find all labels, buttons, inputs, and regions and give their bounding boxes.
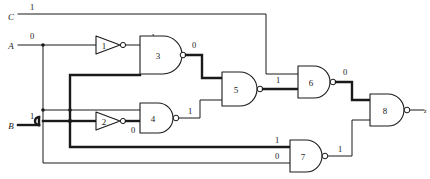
value-nand4-out: 1 [188,106,192,116]
value-nand3-out: 0 [192,40,196,50]
junction-b-split [68,119,72,123]
value-nand6-out: 0 [343,67,347,77]
value-nand5-out: 1 [276,75,280,85]
value-nand7-input-top: 1 [275,135,279,145]
junction-a-split-top [41,43,45,47]
gate-nand-8-number: 8 [383,106,388,116]
wire-b-branch-to-nand3 [70,75,140,121]
value-nand7-out: 1 [338,144,342,154]
wire-nand4-to-nand5 [179,100,222,118]
gate-inverter-2-number: 2 [102,117,107,127]
gate-nand-4-number: 4 [151,114,156,124]
input-label-C: C [8,12,15,22]
input-label-B: B [8,121,14,131]
gate-inverter-1-number: 1 [102,41,107,51]
gate-nand-4-body [140,103,173,133]
output-label-z: z [423,107,427,114]
gate-nand-6-body [298,66,330,98]
gate-nand-8-bubble [404,107,410,113]
junction-a-split-mid [41,108,45,112]
gate-nand-5-number: 5 [234,85,239,95]
gate-nand-4-bubble [173,115,179,121]
value-input-C: 1 [30,2,34,12]
gate-nand-7-number: 7 [301,152,306,162]
value-input-B: 1 [30,111,34,121]
wire-nand3-to-nand5 [186,55,222,78]
gate-nand-3-body [140,36,182,74]
wire-nand6-to-nand8 [336,82,370,100]
gate-inverter-1-body [96,36,120,54]
value-nand7-input-bottom: 0 [275,151,279,161]
gate-nand-5-body [222,72,257,106]
logic-circuit-diagram: C A B 1 0 1 1 1 2 0 3 0 4 1 [0,0,430,179]
gate-inverter-1-bubble [120,42,125,47]
circuit-canvas: C A B 1 0 1 1 1 2 0 3 0 4 1 [0,0,430,179]
gate-inverter-2-body [96,112,120,130]
junction-a-mid-to-nand4 [68,108,72,112]
gate-nand-6-number: 6 [309,78,314,88]
gate-nand-3-number: 3 [156,51,161,61]
wire-nand7-to-nand8 [328,120,370,156]
value-inverter2-out: 0 [131,125,135,135]
input-label-A: A [7,41,14,51]
gate-nand-7-bubble [322,153,328,159]
value-input-A: 0 [30,31,34,41]
gate-nand-7-body [290,140,322,172]
